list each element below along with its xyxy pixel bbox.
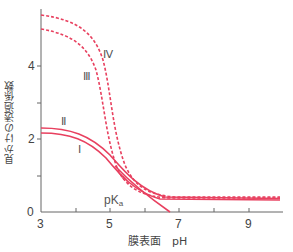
- x-tick-9: 9: [245, 217, 252, 231]
- x-tick-7: 7: [175, 217, 182, 231]
- pka-label: pKa: [104, 193, 124, 208]
- label-curve-iv: Ⅳ: [103, 48, 114, 60]
- x-tick-5: 5: [106, 217, 113, 231]
- label-curve-ii: Ⅱ: [61, 115, 66, 127]
- curves: [41, 15, 280, 212]
- curve-iii: [41, 29, 280, 198]
- label-curve-iii: Ⅲ: [83, 70, 91, 82]
- y-axis-label: 見かけの透過係数: [2, 62, 16, 182]
- x-tick-3: 3: [37, 217, 44, 231]
- axes: [37, 9, 283, 212]
- y-tick-2: 2: [28, 132, 35, 146]
- y-tick-4: 4: [28, 59, 35, 73]
- pka-subscript: a: [119, 199, 124, 208]
- x-axis-label: 膜表面 pH: [128, 232, 187, 248]
- y-tick-0: 0: [27, 205, 34, 219]
- curve-i-extension: [115, 166, 170, 212]
- curve-iv: [41, 15, 280, 197]
- label-curve-i: Ⅰ: [78, 143, 81, 155]
- curve-i: [41, 133, 280, 200]
- chart: 0 2 4 3 5 7 9 Ⅳ Ⅲ Ⅱ Ⅰ pKa: [0, 0, 293, 252]
